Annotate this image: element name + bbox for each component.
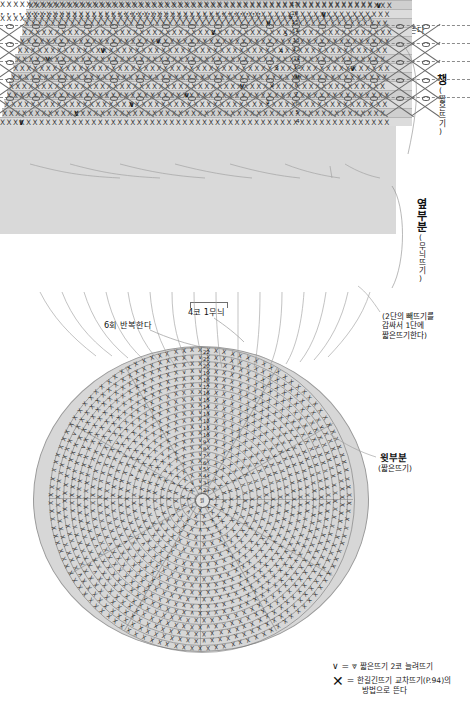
crown-stitch: X: [165, 357, 170, 364]
chain-stitch-oval: [370, 96, 378, 101]
crown-stitch: X: [83, 489, 89, 494]
chain-stitch-oval: [136, 78, 144, 83]
crown-stitch: X: [165, 619, 171, 626]
crown-stitch: X: [230, 365, 235, 372]
crown-increase-stitch: ∨: [198, 423, 202, 429]
crown-stitch: X: [69, 493, 75, 497]
crown-stitch: X: [291, 497, 297, 501]
chain-stitch-oval: [422, 42, 430, 47]
crown-stitch: X: [49, 509, 55, 514]
chain-stitch-oval: [318, 78, 326, 83]
crown-stitch: X: [202, 596, 206, 602]
crown-stitch: X: [181, 390, 186, 397]
chain-stitch-oval: [136, 42, 144, 47]
side-stitch-row: XXXXXXXXXXXXXXXXXXXXXXXXXXXXXXXXXXXXXXXX…: [0, 15, 470, 23]
crown-row-number: 22: [203, 349, 210, 355]
crown-stitch: X: [152, 499, 158, 503]
chain-stitch-oval: [240, 96, 248, 101]
crown-stitch: X: [189, 458, 194, 465]
crown-row-number: 7: [203, 453, 206, 459]
crown-stitch: X: [181, 376, 186, 383]
legend-text: 한길긴뜨기 교차뜨기(P.94)의 방법으로 뜬다: [357, 676, 451, 695]
chain-stitch-oval: [136, 60, 144, 65]
crown-stitch: X: [190, 589, 195, 595]
crown-stitch: X: [198, 569, 202, 575]
crown-stitch: X: [329, 523, 336, 528]
crown-stitch: X: [117, 503, 123, 508]
crown-stitch: X: [324, 509, 330, 514]
crown-stitch: X: [76, 503, 82, 507]
crown-stitch: X: [190, 361, 194, 367]
crown-stitch: X: [190, 568, 195, 574]
chain-stitch-oval: [32, 96, 40, 101]
crown-stitch: X: [181, 355, 186, 361]
crown-stitch: X: [173, 600, 178, 607]
crown-stitch: X: [57, 470, 64, 475]
crown-stitch: X: [112, 476, 119, 481]
crown-stitch: X: [277, 495, 283, 499]
brim-label-sub: (짧은뜨기): [436, 86, 445, 136]
chain-stitch-oval: [214, 42, 222, 47]
crown-stitch: X: [131, 493, 137, 497]
side-row-number: 3: [275, 64, 279, 71]
crown-stitch: X: [169, 613, 174, 620]
side-label-sub: (무늬뜨기): [416, 233, 425, 283]
side-section-label: 옆부분(무늬뜨기): [412, 198, 428, 283]
crown-stitch: X: [194, 617, 198, 623]
crown-stitch: X: [165, 372, 171, 379]
chain-stitch-oval: [266, 60, 274, 65]
crown-stitch: X: [290, 489, 296, 494]
chain-stitch-oval: [110, 60, 118, 65]
crown-stitch: X: [206, 589, 211, 595]
crown-stitch: X: [325, 493, 331, 497]
crown-stitch: X: [202, 534, 207, 540]
crown-stitch: X: [181, 397, 186, 404]
side-label-main: 옆부분: [414, 198, 427, 233]
crown-stitch: X: [311, 505, 317, 510]
crown-stitch: X: [190, 396, 195, 402]
chain-stitch-oval: [110, 24, 118, 29]
crown-stitch: X: [249, 497, 255, 501]
crown-stitch: X: [304, 493, 310, 497]
crown-stitch: X: [230, 641, 235, 648]
chain-stitch-oval: [84, 42, 92, 47]
crown-stitch: X: [185, 637, 190, 643]
crown-stitch: X: [181, 404, 186, 411]
crown-stitch: X: [189, 444, 194, 451]
chain-stitch-oval: [240, 60, 248, 65]
crown-stitch: X: [177, 615, 182, 622]
crown-stitch: X: [327, 531, 334, 537]
crown-stitch: X: [315, 470, 322, 475]
crown-stitch: X: [198, 610, 202, 616]
crown-stitch: X: [210, 637, 215, 643]
crown-row-number: 11: [203, 425, 210, 431]
crown-stitch: X: [118, 486, 124, 491]
crown-stitch: X: [173, 349, 178, 356]
crown-stitch: X: [338, 487, 344, 492]
crown-stitch: X: [202, 555, 207, 561]
crown-increase-stitch: ∨: [198, 478, 202, 484]
side-row-number: 6: [289, 13, 293, 20]
chain-stitch-oval: [214, 78, 222, 83]
annotation-pattern-unit: 4코 1무늬: [188, 307, 225, 317]
crown-stitch: X: [194, 534, 199, 540]
crown-stitch: X: [181, 602, 186, 609]
chain-stitch-oval: [58, 96, 66, 101]
crown-stitch: X: [345, 509, 351, 514]
crown-stitch: X: [198, 361, 202, 367]
crown-stitch: X: [323, 476, 330, 481]
crown-stitch: X: [198, 430, 202, 436]
crown-stitch: X: [185, 616, 190, 622]
crown-row-number: 14: [203, 404, 210, 410]
chain-stitch-oval: [396, 42, 404, 47]
chain-stitch-oval: [6, 78, 14, 83]
crown-row-number: 6: [203, 460, 206, 466]
chain-stitch-oval: [292, 78, 300, 83]
crown-increase-stitch: ∨: [198, 368, 202, 374]
crown-stitch: X: [55, 503, 61, 507]
crown-stitch: X: [198, 389, 202, 395]
chain-stitch-oval: [370, 78, 378, 83]
crown-stitch: X: [297, 503, 303, 507]
crown-stitch: X: [126, 480, 133, 485]
chain-stitch-oval: [6, 60, 14, 65]
